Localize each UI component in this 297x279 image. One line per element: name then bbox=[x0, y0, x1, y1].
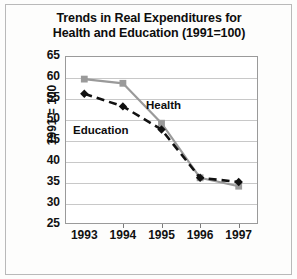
series-layer bbox=[0, 0, 297, 279]
data-point-marker-health bbox=[81, 76, 88, 83]
chart-figure: Trends in Real Expenditures for Health a… bbox=[0, 0, 297, 279]
series-label-health: Health bbox=[146, 99, 181, 111]
data-point-marker-education bbox=[80, 90, 88, 98]
data-point-marker-health bbox=[120, 80, 127, 87]
series-label-education: Education bbox=[73, 124, 129, 136]
